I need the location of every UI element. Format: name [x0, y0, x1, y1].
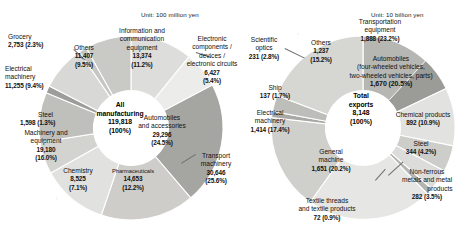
unit-label-right: Unit: 10 billion yen	[371, 11, 424, 18]
label-non-ferrous-metals: Non-ferrous metals and metal products 28…	[382, 168, 472, 202]
center-label-all-manufacturing: All manufacturing 119,818 (100%)	[86, 101, 154, 135]
label-transportation-equipment: Transportation equipment 1,888 (23.2%)	[340, 18, 420, 43]
label-steel-right: Steel 344 (4.2%)	[392, 140, 450, 157]
infographic-stage: Unit: 100 million yen Unit: 10 billion y…	[0, 0, 473, 242]
label-electrical-machinery-left: Electrical machinery 11,255 (9.4%)	[5, 65, 44, 90]
label-general-machine: General machine 1,651 (20.2%)	[296, 148, 366, 173]
label-transport-machinery: Transport machinery 30,646 (25.6%)	[190, 152, 242, 186]
label-grocery: Grocery 2,753 (2.3%)	[8, 33, 43, 50]
label-ship: Ship 137 (1.7%)	[252, 84, 298, 101]
label-electronic-components: Electronic components / devices / electr…	[179, 35, 245, 85]
label-others-left: Others 11,407 (9.5%)	[63, 44, 105, 69]
label-machinery-and-equipment: Machinery and equipment 19,180 (16.0%)	[8, 129, 84, 163]
label-pharmaceuticals: Pharmaceuticals 14,653 (12.2%)	[102, 167, 164, 192]
label-electrical-machinery-right: Electrical machinery 1,414 (17.4%)	[240, 109, 300, 134]
label-chemistry: Chemistry 8,525 (7.1%)	[52, 167, 104, 192]
label-information-communication-equipment: Information and communication equipment …	[106, 27, 178, 69]
label-steel-left: Steel 1,598 (1.3%)	[20, 111, 55, 128]
center-label-total-exports: Total exports 8,148 (100%)	[330, 92, 392, 126]
label-textile-threads: Textile threads and textile products 72 …	[272, 197, 382, 222]
unit-label-left: Unit: 100 million yen	[141, 11, 199, 18]
label-automobiles-right: Automobiles (four-wheeled vehicles, two-…	[330, 55, 452, 89]
label-chemical-products: Chemical products 892 (10.9%)	[380, 111, 466, 128]
label-scientific-optics: Scientific optics 231 (2.8%)	[240, 36, 288, 61]
